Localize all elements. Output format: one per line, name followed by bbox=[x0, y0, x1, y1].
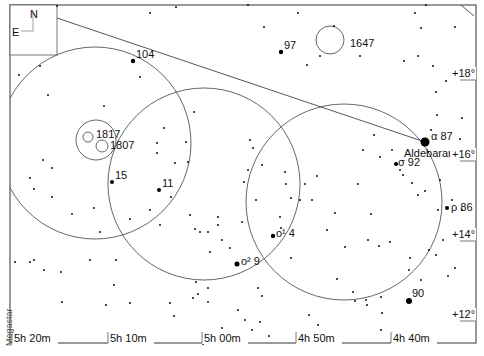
compass-east: E bbox=[12, 26, 19, 38]
star bbox=[334, 212, 336, 214]
star bbox=[435, 91, 437, 93]
ra-label: 4h 50m bbox=[298, 332, 335, 344]
star-marker bbox=[421, 138, 430, 147]
star bbox=[378, 245, 380, 247]
star bbox=[344, 246, 346, 248]
star bbox=[199, 231, 201, 233]
star bbox=[115, 259, 117, 261]
star bbox=[229, 247, 231, 249]
star bbox=[14, 261, 16, 263]
star-marker bbox=[110, 180, 114, 184]
star-marker bbox=[279, 50, 283, 54]
star bbox=[417, 55, 419, 57]
star bbox=[461, 117, 463, 119]
star bbox=[189, 214, 191, 216]
star bbox=[381, 312, 383, 314]
star bbox=[217, 224, 219, 226]
star bbox=[175, 6, 177, 8]
dec-label: +16° bbox=[452, 148, 475, 160]
star bbox=[263, 26, 265, 28]
star bbox=[170, 196, 172, 198]
star bbox=[380, 329, 382, 331]
star bbox=[459, 138, 461, 140]
star bbox=[217, 216, 219, 218]
object-label: ρ 86 bbox=[451, 201, 473, 213]
star bbox=[51, 167, 53, 169]
star bbox=[174, 162, 176, 164]
star-marker bbox=[131, 59, 135, 63]
star bbox=[33, 188, 35, 190]
star bbox=[89, 259, 91, 261]
star bbox=[249, 139, 251, 141]
star bbox=[297, 12, 299, 14]
star bbox=[365, 299, 367, 301]
star bbox=[149, 12, 151, 14]
dec-label: +14° bbox=[452, 228, 475, 240]
star bbox=[439, 179, 441, 181]
star bbox=[299, 199, 301, 201]
star bbox=[149, 209, 151, 211]
star bbox=[241, 221, 243, 223]
star bbox=[373, 134, 375, 136]
star bbox=[129, 218, 131, 220]
star bbox=[399, 169, 401, 171]
dec-label: +18° bbox=[452, 67, 475, 79]
object-label: o² 9 bbox=[241, 255, 260, 267]
star-chart: N E 104971647181718071511α 87Aldebaranσ … bbox=[0, 0, 484, 356]
star bbox=[379, 156, 381, 158]
object-label: 1647 bbox=[350, 37, 374, 49]
star bbox=[139, 76, 141, 78]
star bbox=[185, 141, 187, 143]
star bbox=[71, 213, 73, 215]
compass-north: N bbox=[30, 8, 38, 20]
object-label: 90 bbox=[412, 287, 424, 299]
star bbox=[447, 275, 449, 277]
star bbox=[93, 207, 95, 209]
star bbox=[29, 177, 31, 179]
star bbox=[207, 301, 209, 303]
star bbox=[156, 142, 158, 144]
star bbox=[221, 239, 223, 241]
star bbox=[195, 281, 197, 283]
star bbox=[279, 216, 281, 218]
star bbox=[257, 287, 259, 289]
star bbox=[244, 319, 246, 321]
star bbox=[247, 4, 249, 6]
star bbox=[285, 183, 287, 185]
star bbox=[380, 296, 382, 298]
star bbox=[319, 55, 321, 57]
star-marker bbox=[445, 206, 449, 210]
star bbox=[99, 231, 101, 233]
star bbox=[56, 5, 58, 7]
star bbox=[442, 239, 444, 241]
ra-label: 5h 00m bbox=[204, 332, 241, 344]
star bbox=[247, 169, 249, 171]
object-label: 97 bbox=[284, 39, 296, 51]
star bbox=[103, 105, 105, 107]
star-marker bbox=[235, 262, 240, 267]
star bbox=[308, 314, 310, 316]
star bbox=[304, 183, 306, 185]
star bbox=[389, 241, 391, 243]
star bbox=[435, 254, 437, 256]
star bbox=[403, 60, 405, 62]
star bbox=[163, 127, 165, 129]
chart-frame bbox=[10, 5, 476, 343]
object-label: 104 bbox=[136, 48, 154, 60]
star-marker bbox=[157, 188, 161, 192]
star bbox=[268, 335, 270, 337]
star bbox=[359, 55, 361, 57]
star bbox=[113, 284, 115, 286]
star bbox=[261, 295, 263, 297]
object-label: α 87 bbox=[431, 130, 453, 142]
star bbox=[333, 25, 335, 27]
star bbox=[197, 293, 199, 295]
star bbox=[187, 161, 189, 163]
star bbox=[402, 174, 404, 176]
ra-label: 4h 40m bbox=[393, 332, 430, 344]
star bbox=[237, 309, 239, 311]
star bbox=[156, 152, 158, 154]
star bbox=[357, 183, 359, 185]
object-label: 11 bbox=[162, 177, 173, 189]
credit-label: Megastar bbox=[4, 300, 14, 346]
